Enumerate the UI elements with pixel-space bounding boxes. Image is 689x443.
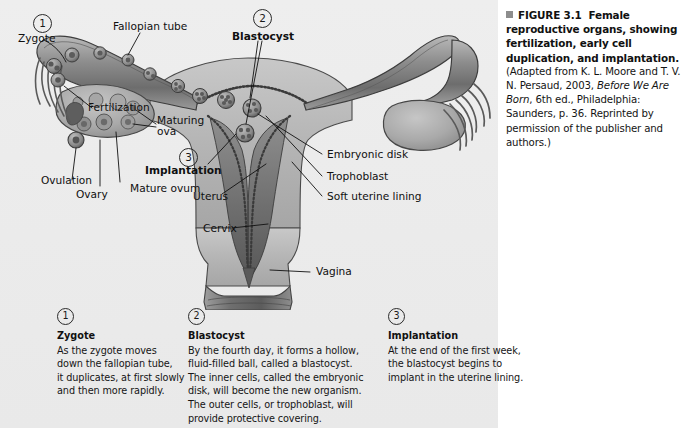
label-implantation: Implantation — [145, 164, 222, 176]
label-blastocyst: Blastocyst — [232, 30, 294, 42]
column-2-title: Blastocyst — [188, 329, 363, 343]
column-2-number: 2 — [188, 308, 205, 325]
column-1-line-2: down the fallopian tube, — [57, 357, 184, 371]
column-3-line-3: implant in the uterine lining. — [388, 371, 523, 385]
column-2-body: By the fourth day, it forms a hollow, fl… — [188, 344, 363, 426]
column-2-line-5: The outer cells, or trophoblast, will — [188, 398, 363, 412]
label-vagina: Vagina — [316, 265, 352, 277]
column-3-title: Implantation — [388, 329, 523, 343]
caption-source: (Adapted from K. L. Moore and T. V. N. P… — [506, 65, 684, 150]
column-2-line-6: provide protective covering. — [188, 412, 363, 426]
label-mature-ovum: Mature ovum — [130, 182, 200, 194]
label-ovulation: Ovulation — [41, 174, 92, 186]
column-2-line-4: disk, will become the new organism. — [188, 384, 363, 398]
column-1-number: 1 — [57, 308, 74, 325]
caption-figure-label: FIGURE 3.1 — [518, 9, 582, 21]
column-2-line-1: By the fourth day, it forms a hollow, — [188, 344, 363, 358]
column-1-title: Zygote — [57, 329, 184, 343]
diagram-callout-2: 2 — [253, 9, 272, 28]
figure-page: 1 2 3 Zygote Fallopian tube Blastocyst F… — [0, 0, 689, 443]
column-3-line-2: the blastocyst begins to — [388, 357, 523, 371]
label-embryonic-disk: Embryonic disk — [327, 148, 408, 160]
column-1: 1 Zygote As the zygote moves down the fa… — [57, 308, 184, 398]
ovum-nucleus — [125, 119, 131, 125]
column-1-line-1: As the zygote moves — [57, 344, 184, 358]
caption-heading: FIGURE 3.1 Female reproductive organs, s… — [506, 8, 684, 65]
label-cervix: Cervix — [203, 222, 237, 234]
label-maturing-ova-line-2: ova — [157, 125, 176, 137]
column-3-line-1: At the end of the first week, — [388, 344, 523, 358]
column-1-body: As the zygote moves down the fallopian t… — [57, 344, 184, 398]
label-fallopian-tube: Fallopian tube — [113, 20, 187, 32]
column-3-body: At the end of the first week, the blasto… — [388, 344, 523, 385]
label-uterus: Uterus — [193, 190, 228, 202]
label-trophoblast: Trophoblast — [327, 170, 388, 182]
label-soft-uterine-lining: Soft uterine lining — [327, 190, 422, 202]
column-1-line-3: it duplicates, at first slowly — [57, 371, 184, 385]
column-2-line-3: The inner cells, called the embryonic — [188, 371, 363, 385]
square-bullet-icon — [506, 11, 513, 18]
column-2-line-2: fluid-filled ball, called a blastocyst. — [188, 357, 363, 371]
ovum-nucleus — [101, 119, 107, 125]
right-fallopian-tube-group — [304, 36, 478, 110]
diagram-callout-1: 1 — [33, 14, 52, 33]
column-3-number: 3 — [388, 308, 405, 325]
caption-source-post: , 6th ed., Philadelphia: Saunders, p. 36… — [506, 94, 663, 148]
label-zygote: Zygote — [18, 32, 55, 44]
column-1-line-4: and then more rapidly. — [57, 384, 184, 398]
column-2: 2 Blastocyst By the fourth day, it forms… — [188, 308, 363, 425]
implanting-blastocyst — [236, 124, 254, 142]
label-ovary: Ovary — [76, 188, 108, 200]
column-3: 3 Implantation At the end of the first w… — [388, 308, 523, 384]
label-fertilization: Fertilization — [88, 101, 150, 113]
reproductive-system-diagram — [0, 0, 498, 310]
figure-caption: FIGURE 3.1 Female reproductive organs, s… — [506, 8, 684, 150]
ovum-nucleus — [81, 121, 87, 127]
